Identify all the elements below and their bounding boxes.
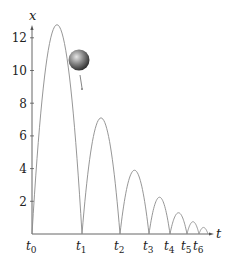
t-tick-label: t1: [76, 239, 87, 255]
t-tick-label: t3: [143, 239, 154, 255]
velocity-arrow-tip-icon: [81, 88, 83, 90]
velocity-arrow: [80, 75, 82, 88]
t-ticks: t0t1t2t3t4t5t6: [26, 239, 204, 255]
t-tick-label: t6: [193, 239, 204, 255]
t-tick-label: t2: [114, 239, 125, 255]
bounce-curve: [32, 25, 208, 234]
y-axis-arrow-icon: [30, 25, 33, 30]
y-axis-label: x: [29, 8, 37, 23]
y-tick-label: 10: [12, 64, 27, 78]
y-tick-label: 6: [19, 129, 27, 143]
ball: [69, 50, 90, 71]
t-tick-label: t4: [164, 239, 175, 255]
y-ticks: 24681012: [12, 31, 34, 209]
y-tick-label: 12: [12, 31, 27, 45]
x-axis-label: t: [216, 226, 222, 241]
t-tick-label: t5: [181, 239, 192, 255]
x-axis-arrow-icon: [209, 232, 214, 235]
y-tick-label: 4: [19, 162, 27, 176]
t-tick-label: t0: [26, 239, 37, 255]
bouncing-ball-chart: x t 24681012 t0t1t2t3t4t5t6: [0, 0, 230, 265]
y-tick-label: 2: [19, 195, 27, 209]
y-tick-label: 8: [19, 97, 27, 111]
